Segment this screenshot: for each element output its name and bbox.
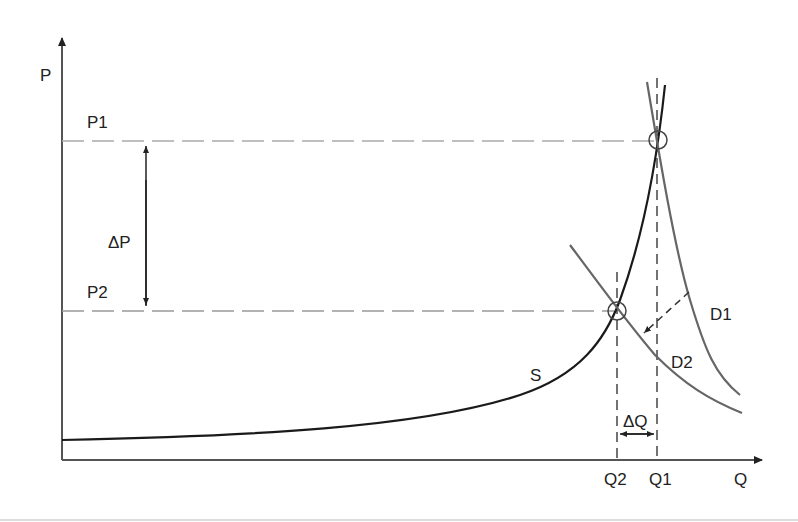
y-axis-label: P [40, 66, 51, 85]
supply-label: S [530, 366, 541, 385]
q2-label: Q2 [604, 470, 627, 489]
supply-demand-diagram: P Q P1 P2 ΔP Q2 Q1 ΔQ S D1 D2 [0, 0, 798, 522]
delta-p-label: ΔP [108, 233, 131, 252]
demand2-label: D2 [671, 353, 693, 372]
p1-label: P1 [87, 113, 108, 132]
p2-label: P2 [87, 283, 108, 302]
demand1-label: D1 [710, 305, 732, 324]
q1-label: Q1 [649, 470, 672, 489]
demand-curve-d2 [570, 245, 742, 413]
supply-curve [62, 85, 665, 440]
x-axis-label: Q [734, 470, 747, 489]
delta-q-label: ΔQ [623, 412, 648, 431]
demand-curve-d1 [647, 82, 740, 395]
demand-shift-arrow [644, 292, 689, 333]
